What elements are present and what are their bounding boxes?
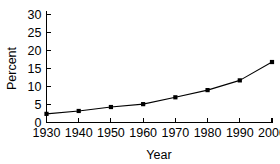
line-chart: 051015202530 193019401950196019701980199… bbox=[0, 0, 280, 164]
x-tick-label-2000: 2000 bbox=[258, 126, 280, 140]
data-point-2000 bbox=[270, 60, 274, 64]
data-point-1970 bbox=[173, 95, 177, 99]
data-markers-percent bbox=[44, 60, 274, 116]
x-tick-label-1990: 1990 bbox=[226, 126, 254, 140]
data-point-1960 bbox=[141, 102, 145, 106]
data-point-1980 bbox=[205, 88, 209, 92]
x-tick-label-1930: 1930 bbox=[33, 126, 61, 140]
data-line-percent bbox=[47, 62, 273, 114]
y-tick-label-25: 25 bbox=[28, 26, 42, 40]
x-axis-label: Year bbox=[146, 148, 171, 162]
y-axis-label: Percent bbox=[5, 46, 19, 90]
data-point-1940 bbox=[77, 109, 81, 113]
x-axis-tick-marks bbox=[47, 118, 273, 123]
data-point-1930 bbox=[44, 112, 48, 116]
data-point-1990 bbox=[238, 78, 242, 82]
x-tick-label-1940: 1940 bbox=[65, 126, 93, 140]
y-tick-label-10: 10 bbox=[28, 80, 42, 94]
x-axis-tick-labels: 19301940195019601970198019902000 bbox=[33, 126, 280, 140]
y-tick-label-20: 20 bbox=[28, 44, 42, 58]
data-point-1950 bbox=[109, 105, 113, 109]
x-tick-label-1950: 1950 bbox=[97, 126, 125, 140]
x-tick-label-1970: 1970 bbox=[161, 126, 189, 140]
x-tick-label-1960: 1960 bbox=[129, 126, 157, 140]
y-tick-label-15: 15 bbox=[28, 62, 42, 76]
x-tick-label-1980: 1980 bbox=[194, 126, 222, 140]
y-axis-tick-marks bbox=[47, 15, 52, 123]
y-tick-label-5: 5 bbox=[35, 98, 42, 112]
y-tick-label-30: 30 bbox=[28, 8, 42, 22]
chart-figure: 051015202530 193019401950196019701980199… bbox=[0, 0, 280, 164]
y-axis-tick-labels: 051015202530 bbox=[28, 8, 42, 130]
